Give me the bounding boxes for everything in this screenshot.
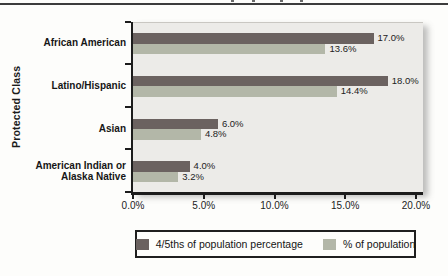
legend-swatch-series2 <box>323 239 336 250</box>
x-axis-line <box>131 192 423 195</box>
bar-value-label: 18.0% <box>392 76 419 87</box>
y-axis-tick <box>125 191 131 193</box>
category-label-line: American Indian or <box>0 160 126 171</box>
bar-value-label: 4.8% <box>205 129 227 140</box>
y-axis-line <box>131 22 133 195</box>
y-axis-tick <box>125 106 131 108</box>
bar-series2 <box>133 86 337 97</box>
category-labels: African AmericanLatino/HispanicAsianAmer… <box>0 22 126 193</box>
bar-value-label: 17.0% <box>378 33 405 44</box>
plot-area: 17.0%18.0%6.0%4.0%13.6%14.4%4.8%3.2% <box>133 22 423 194</box>
bar-value-label: 3.2% <box>182 172 204 183</box>
bar-value-label: 14.4% <box>341 86 368 97</box>
x-tick-label: 20.0% <box>394 200 438 211</box>
x-axis-tick <box>344 195 346 200</box>
y-axis-tick <box>125 63 131 65</box>
figure: Protected Class African AmericanLatino/H… <box>0 0 448 276</box>
y-axis-tick <box>125 148 131 150</box>
category-label-line: African American <box>0 37 126 48</box>
legend-label-series2: % of population <box>343 238 415 250</box>
category-label-line: Asian <box>0 123 126 134</box>
category-label: Asian <box>0 123 126 134</box>
x-tick-label: 10.0% <box>253 200 297 211</box>
x-axis-tick <box>132 195 134 200</box>
bar-value-label: 13.6% <box>329 44 356 55</box>
legend-label-series1: 4/5ths of population percentage <box>156 238 303 250</box>
x-axis-tick <box>203 195 205 200</box>
category-label-line: Alaska Native <box>0 171 126 182</box>
bar-series2 <box>133 44 325 55</box>
x-tick-label: 5.0% <box>182 200 226 211</box>
category-label: African American <box>0 37 126 48</box>
category-label-line: Latino/Hispanic <box>0 80 126 91</box>
x-axis-tick <box>274 195 276 200</box>
x-axis-tick <box>415 195 417 200</box>
bar-series2 <box>133 129 201 140</box>
x-tick-label: 0.0% <box>111 200 155 211</box>
cropped-title-remnant <box>231 0 234 2</box>
cropped-title-remnant <box>300 0 303 2</box>
bar-series2 <box>133 172 178 183</box>
y-axis-tick <box>125 21 131 23</box>
x-tick-label: 15.0% <box>323 200 367 211</box>
bar-series1 <box>133 161 190 172</box>
cropped-title-remnant <box>252 0 255 2</box>
category-label: Latino/Hispanic <box>0 80 126 91</box>
category-label: American Indian orAlaska Native <box>0 160 126 182</box>
legend: 4/5ths of population percentage % of pop… <box>135 230 416 258</box>
cropped-title-remnant <box>280 0 283 2</box>
legend-swatch-series1 <box>136 239 149 250</box>
top-crop-rule <box>0 3 448 5</box>
